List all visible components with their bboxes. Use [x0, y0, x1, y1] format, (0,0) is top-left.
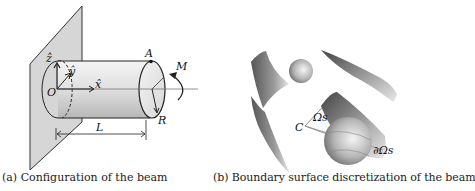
large-sphere — [324, 117, 372, 165]
caption-b: (b) Boundary surface discretization of t… — [213, 171, 475, 184]
surface-discretization-diagram: C Ωs ∂Ωs — [213, 0, 426, 191]
origin-label: O — [47, 86, 56, 99]
radius-label: R — [157, 114, 166, 127]
point-a-label: A — [144, 47, 153, 60]
x-axis-label: x̂ — [95, 78, 102, 91]
omega-s-label: Ωs — [312, 111, 328, 124]
small-sphere — [289, 59, 313, 83]
moment-label: M — [175, 60, 188, 73]
boundary-omega-s-label: ∂Ωs — [373, 144, 394, 157]
shell-segment-upper-left — [251, 51, 289, 108]
y-axis-label: ŷ — [68, 65, 76, 78]
shell-segment-lower-left — [251, 96, 290, 174]
beam-configuration-diagram: ẑ ŷ x̂ O A M R L — [0, 0, 213, 191]
point-c-label: C — [295, 121, 304, 134]
length-label: L — [95, 121, 103, 134]
moment-arrow — [172, 75, 183, 100]
panel-b-surface-discretization: C Ωs ∂Ωs (b) Boundary surface discretiza… — [213, 0, 426, 191]
caption-a: (a) Configuration of the beam — [2, 171, 167, 184]
panel-a-beam-configuration: ẑ ŷ x̂ O A M R L (a) Configuration of th… — [0, 0, 213, 191]
z-axis-label: ẑ — [45, 52, 52, 65]
